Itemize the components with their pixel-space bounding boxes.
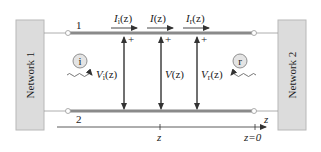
reflected-wave-indicator: r <box>231 54 256 77</box>
incident-voltage-arrow: + Vi(z) <box>96 33 134 109</box>
z-axis-label: z <box>263 113 269 125</box>
reflected-voltage-arrow: + Vr(z) <box>197 33 223 109</box>
svg-text:Vr(z): Vr(z) <box>201 68 223 82</box>
reflected-voltage-plus: + <box>201 33 207 45</box>
network-2-box: Network 2 <box>278 20 306 130</box>
network-1-label: Network 1 <box>24 52 36 99</box>
total-voltage-plus: + <box>165 33 171 45</box>
svg-text:Vi(z): Vi(z) <box>96 68 118 82</box>
incident-wave-indicator: i <box>67 54 92 77</box>
conductor-1-label: 1 <box>76 19 82 31</box>
conductor-2-label: 2 <box>76 113 82 125</box>
svg-text:i: i <box>78 55 81 67</box>
svg-text:r: r <box>238 55 242 67</box>
transmission-line-diagram: Network 1 Network 2 1 2 Ii(z) I(z) Ir(z) <box>0 0 321 152</box>
wave-squiggle-icon <box>231 74 256 77</box>
reflected-current-arrow: Ir(z) <box>183 12 209 28</box>
network-1-box: Network 1 <box>16 20 44 130</box>
wave-squiggle-icon <box>67 74 92 77</box>
svg-text:I(z): I(z) <box>149 12 166 25</box>
incident-current-arrow: Ii(z) <box>111 12 137 28</box>
incident-voltage-plus: + <box>128 33 134 45</box>
network-2-label: Network 2 <box>286 52 298 99</box>
tick-z0-label: z=0 <box>243 131 262 143</box>
svg-text:Ir(z): Ir(z) <box>185 12 205 26</box>
svg-text:Ii(z): Ii(z) <box>113 12 132 26</box>
total-current-arrow: I(z) <box>147 12 173 28</box>
z-axis: z z z=0 <box>57 113 269 143</box>
total-voltage-arrow: + V(z) <box>161 33 184 109</box>
tick-z-label: z <box>156 131 162 143</box>
svg-text:V(z): V(z) <box>165 68 184 81</box>
